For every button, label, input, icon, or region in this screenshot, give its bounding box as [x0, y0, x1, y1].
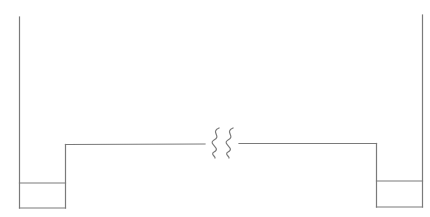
- diagram-canvas: [0, 0, 430, 217]
- break-wave-left-icon: [212, 128, 219, 158]
- break-wave-right-icon: [226, 128, 233, 158]
- profile-diagram: [0, 0, 430, 217]
- span-left-line: [66, 144, 206, 145]
